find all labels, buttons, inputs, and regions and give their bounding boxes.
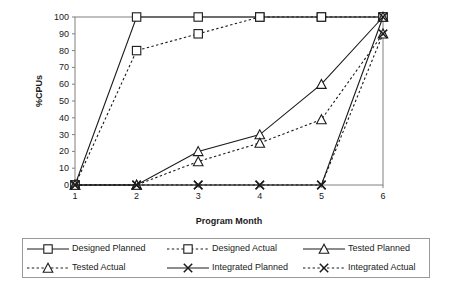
legend-row: Tested ActualIntegrated PlannedIntegrate… bbox=[23, 258, 429, 277]
series-designed-actual bbox=[71, 13, 387, 189]
x-tick-label: 3 bbox=[188, 191, 208, 201]
square-marker bbox=[25, 241, 71, 257]
legend-item-tested-actual[interactable]: Tested Actual bbox=[25, 258, 165, 277]
x-tick-label: 2 bbox=[127, 191, 147, 201]
x-axis-label: Program Month bbox=[75, 216, 383, 226]
legend-row: Designed PlannedDesigned ActualTested Pl… bbox=[23, 239, 429, 258]
legend-label: Tested Actual bbox=[71, 263, 126, 272]
triangle-marker bbox=[25, 260, 71, 276]
y-tick-label: 0 bbox=[45, 180, 69, 190]
series-layer bbox=[70, 12, 388, 189]
legend-label: Tested Planned bbox=[347, 244, 410, 253]
legend-item-designed-actual[interactable]: Designed Actual bbox=[165, 239, 301, 258]
legend-label: Integrated Actual bbox=[347, 263, 416, 272]
legend-label: Designed Planned bbox=[71, 244, 146, 253]
legend-item-tested-planned[interactable]: Tested Planned bbox=[301, 239, 429, 258]
x-tick-label: 4 bbox=[250, 191, 270, 201]
x-tick-label: 1 bbox=[65, 191, 85, 201]
legend-item-designed-planned[interactable]: Designed Planned bbox=[25, 239, 165, 258]
legend-label: Designed Actual bbox=[211, 244, 277, 253]
x-marker bbox=[301, 260, 347, 276]
y-tick-label: 30 bbox=[45, 130, 69, 140]
legend-label: Integrated Planned bbox=[211, 263, 288, 272]
legend-item-integrated-planned[interactable]: Integrated Planned bbox=[165, 258, 301, 277]
y-tick-label: 90 bbox=[45, 29, 69, 39]
square-marker bbox=[165, 241, 211, 257]
series-integrated-actual bbox=[71, 30, 387, 190]
series-tested-planned bbox=[70, 12, 388, 189]
chart-legend: Designed PlannedDesigned ActualTested Pl… bbox=[22, 238, 430, 278]
legend-item-integrated-actual[interactable]: Integrated Actual bbox=[301, 258, 429, 277]
x-tick-label: 6 bbox=[373, 191, 393, 201]
x-marker bbox=[165, 260, 211, 276]
x-tick-label: 5 bbox=[311, 191, 331, 201]
y-tick-label: 60 bbox=[45, 79, 69, 89]
y-tick-label: 100 bbox=[45, 12, 69, 22]
y-axis-label: %CPUs bbox=[34, 48, 44, 134]
axis-layer bbox=[72, 17, 383, 188]
y-tick-label: 40 bbox=[45, 113, 69, 123]
chart-figure: %CPUs Program Month 01020304050607080901… bbox=[0, 0, 453, 291]
y-tick-label: 10 bbox=[45, 163, 69, 173]
series-designed-planned bbox=[71, 13, 387, 189]
y-tick-label: 20 bbox=[45, 146, 69, 156]
triangle-marker bbox=[301, 241, 347, 257]
series-integrated-planned bbox=[71, 13, 387, 189]
y-tick-label: 80 bbox=[45, 46, 69, 56]
y-tick-label: 50 bbox=[45, 96, 69, 106]
y-tick-label: 70 bbox=[45, 62, 69, 72]
series-tested-actual bbox=[70, 29, 388, 189]
